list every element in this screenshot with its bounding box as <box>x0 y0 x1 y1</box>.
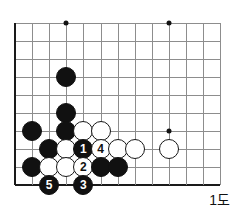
black-stone-b7 <box>22 121 42 141</box>
white-stone-h8 <box>125 139 145 159</box>
move-number-label: 3 <box>80 179 87 191</box>
black-stone-c10-move5: 5 <box>39 175 59 195</box>
white-stone-f7 <box>91 121 111 141</box>
white-stone-j7 <box>159 139 179 159</box>
move-number-label: 2 <box>80 161 87 173</box>
move-number-label: 5 <box>46 179 53 191</box>
figure-caption: 1도 <box>209 189 230 209</box>
black-stone-g9 <box>108 157 128 177</box>
black-stone-d4 <box>56 67 76 87</box>
stones-layer: 14253 <box>0 0 234 210</box>
black-stone-d6 <box>56 103 76 123</box>
go-diagram: 14253 1도 <box>0 0 234 210</box>
move-number-label: 4 <box>97 143 104 155</box>
move-number-label: 1 <box>80 143 87 155</box>
black-stone-e10-move3: 3 <box>73 175 93 195</box>
